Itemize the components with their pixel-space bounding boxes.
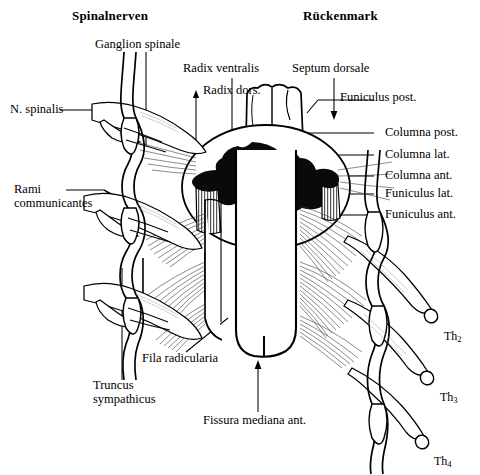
label-columna-ant: Columna ant. bbox=[385, 169, 452, 183]
label-truncus-sympathicus: Truncus sympathicus bbox=[93, 378, 156, 407]
label-th2: Th2 bbox=[444, 330, 462, 344]
label-rami-line2: communicantes bbox=[14, 196, 92, 210]
label-columna-lat: Columna lat. bbox=[385, 148, 450, 162]
label-funiculus-lat: Funiculus lat. bbox=[385, 187, 453, 201]
label-radix-dorsalis: Radix dors. bbox=[203, 84, 261, 98]
title-ruckenmark: Rückenmark bbox=[303, 9, 378, 23]
label-fila-radicularia: Fila radicularia bbox=[142, 352, 218, 366]
label-th3-subscript: 3 bbox=[453, 395, 457, 405]
label-th3-base: Th bbox=[440, 390, 453, 404]
label-septum-dorsale: Septum dorsale bbox=[292, 62, 369, 76]
label-rami-line1: Rami bbox=[14, 182, 92, 196]
title-spinalnerven: Spinalnerven bbox=[72, 9, 148, 23]
label-columna-post: Columna post. bbox=[385, 126, 458, 140]
label-radix-ventralis: Radix ventralis bbox=[183, 62, 259, 76]
label-truncus-line2: sympathicus bbox=[93, 392, 156, 406]
label-funiculus-ant: Funiculus ant. bbox=[385, 208, 456, 222]
label-funiculus-post: Funiculus post. bbox=[340, 91, 416, 105]
label-th4: Th4 bbox=[434, 455, 452, 469]
label-rami-communicantes: Rami communicantes bbox=[14, 182, 92, 211]
label-n-spinalis: N. spinalis bbox=[10, 103, 63, 117]
label-th2-base: Th bbox=[444, 329, 457, 343]
figure-canvas: Spinalnerven Rückenmark Ganglion spinale… bbox=[0, 0, 480, 475]
label-th2-subscript: 2 bbox=[457, 334, 461, 344]
label-fissura-mediana-ant: Fissura mediana ant. bbox=[203, 414, 306, 428]
label-ganglion-spinale: Ganglion spinale bbox=[95, 38, 180, 52]
label-th3: Th3 bbox=[440, 391, 458, 405]
label-th4-subscript: 4 bbox=[447, 459, 451, 469]
label-truncus-line1: Truncus bbox=[93, 378, 156, 392]
label-th4-base: Th bbox=[434, 454, 447, 468]
